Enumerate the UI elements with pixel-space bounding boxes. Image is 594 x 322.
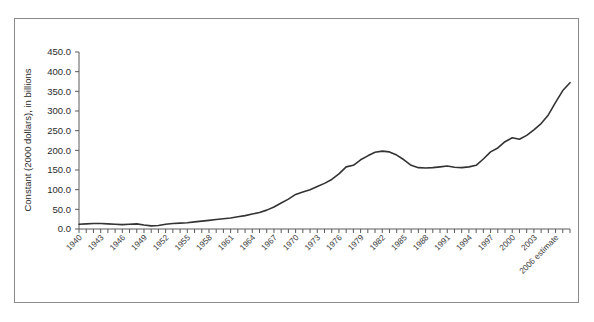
x-axis-tick-label: 1970 — [281, 233, 301, 253]
x-axis-tick-label: 1952 — [151, 233, 171, 253]
data-series-line — [79, 83, 570, 226]
x-axis-tick-label: 2006 estimate — [518, 233, 561, 276]
y-axis-tick-labels: 0.050.0100.0150.0200.0250.0300.0350.0400… — [47, 46, 71, 234]
x-axis-tick-label: 1958 — [195, 233, 215, 253]
y-axis-tick-label: 0.0 — [58, 223, 71, 234]
y-axis-tick-label: 200.0 — [47, 145, 71, 156]
x-axis-tick-label: 1964 — [238, 233, 258, 253]
x-axis-tick-label: 1997 — [476, 233, 496, 253]
x-axis-tick-label: 1949 — [130, 233, 150, 253]
y-axis-tick-label: 100.0 — [47, 184, 71, 195]
line-chart: 0.050.0100.0150.0200.0250.0300.0350.0400… — [0, 0, 594, 322]
x-axis-tick-label: 1973 — [303, 233, 323, 253]
x-axis-tick-label: 1946 — [108, 233, 128, 253]
x-axis-tick-label: 1985 — [390, 233, 410, 253]
x-axis-tick-label: 1961 — [216, 233, 236, 253]
x-axis-tick-label: 1967 — [260, 233, 280, 253]
x-axis-ticks — [79, 229, 570, 233]
y-axis-tick-label: 50.0 — [53, 204, 72, 215]
x-axis-tick-label: 1982 — [368, 233, 388, 253]
x-axis-tick-labels: 1940194319461949195219551958196119641967… — [65, 233, 561, 276]
y-axis-ticks — [75, 52, 79, 229]
y-axis-tick-label: 300.0 — [47, 105, 71, 116]
y-axis-tick-label: 150.0 — [47, 164, 71, 175]
chart-figure: 0.050.0100.0150.0200.0250.0300.0350.0400… — [0, 0, 594, 322]
x-axis-tick-label: 2003 — [520, 233, 540, 253]
x-axis-tick-label: 1940 — [65, 233, 85, 253]
x-axis-tick-label: 1943 — [86, 233, 106, 253]
x-axis-tick-label: 1994 — [455, 233, 475, 253]
x-axis-tick-label: 1979 — [346, 233, 366, 253]
y-axis-tick-label: 350.0 — [47, 86, 71, 97]
y-axis-title: Constant (2000 dollars), in billions — [22, 68, 33, 211]
x-axis-tick-label: 1955 — [173, 233, 193, 253]
y-axis-tick-label: 450.0 — [47, 46, 71, 57]
x-axis-tick-label: 1976 — [325, 233, 345, 253]
x-axis-tick-label: 1991 — [433, 233, 453, 253]
x-axis-tick-label: 1988 — [411, 233, 431, 253]
y-axis-tick-label: 400.0 — [47, 66, 71, 77]
x-axis-tick-label: 2000 — [498, 233, 518, 253]
y-axis-tick-label: 250.0 — [47, 125, 71, 136]
